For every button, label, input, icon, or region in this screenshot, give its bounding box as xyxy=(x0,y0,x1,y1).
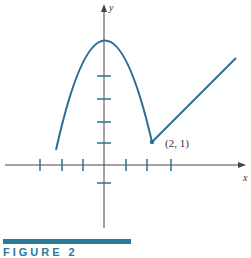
figure-caption: FIGURE 2 xyxy=(3,247,78,258)
x-axis-label: x xyxy=(242,172,248,183)
y-axis-arrow-icon xyxy=(101,4,107,12)
point-marker xyxy=(150,140,154,144)
figure-bar xyxy=(3,239,131,244)
x-axis-arrow-icon xyxy=(238,162,246,168)
linear-segment xyxy=(152,58,236,142)
y-axis-label: y xyxy=(108,2,114,13)
point-label: (2, 1) xyxy=(165,137,189,150)
